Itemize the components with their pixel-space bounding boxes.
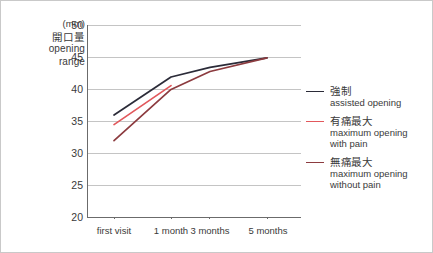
legend-swatch-line-icon: [306, 162, 324, 163]
chart-legend: 強制 assisted opening 有痛最大 maximum opening…: [306, 85, 428, 197]
x-tick-label-first-visit: first visit: [84, 226, 144, 236]
series-line-max-opening-with-pain: [114, 86, 171, 125]
chart-figure: (mm) 開口量 opening range 50 45 40 35 30 25…: [0, 0, 433, 253]
legend-label-en-line1: maximum opening: [330, 127, 428, 139]
legend-swatch-line-icon: [306, 91, 324, 92]
plot-area: [87, 19, 301, 219]
plot-svg: [87, 19, 301, 219]
legend-label-en-line2: with pain: [330, 138, 428, 150]
legend-label-jp: 無痛最大: [330, 156, 428, 168]
gridlines: [87, 26, 301, 186]
y-tick-label-25: 25: [57, 180, 83, 190]
x-tick-label-5-months: 5 months: [237, 226, 299, 236]
series-line-assisted-opening: [114, 58, 267, 115]
y-tick-label-20: 20: [57, 212, 83, 222]
y-axis-title-jp: 開口量: [7, 31, 85, 44]
legend-item-assisted-opening[interactable]: 強制 assisted opening: [306, 85, 428, 109]
x-tick-label-3-months: 3 months: [179, 226, 241, 236]
y-tick-label-30: 30: [57, 148, 83, 158]
y-tick-label-45: 45: [57, 52, 83, 62]
legend-label-en-line2: without pain: [330, 179, 428, 191]
legend-label-en-line1: maximum opening: [330, 168, 428, 180]
y-tick-label-50: 50: [57, 20, 83, 30]
legend-label-jp: 有痛最大: [330, 115, 428, 127]
y-tick-label-40: 40: [57, 84, 83, 94]
legend-swatch-line-icon: [306, 121, 324, 122]
legend-label-jp: 強制: [330, 85, 428, 97]
legend-label-en: assisted opening: [330, 97, 428, 109]
legend-item-max-opening-with-pain[interactable]: 有痛最大 maximum opening with pain: [306, 115, 428, 150]
y-tick-label-35: 35: [57, 116, 83, 126]
legend-item-max-opening-without-pain[interactable]: 無痛最大 maximum opening without pain: [306, 156, 428, 191]
